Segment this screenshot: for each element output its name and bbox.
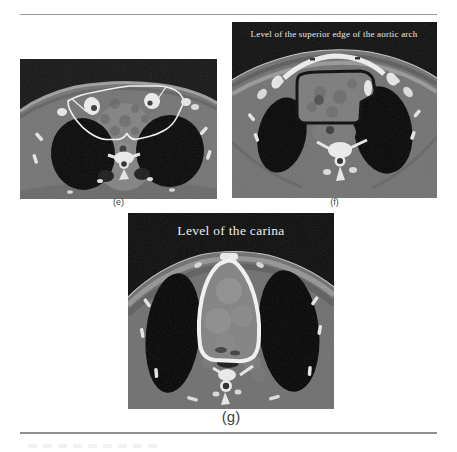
top-horizontal-rule [20,14,437,15]
panel-label-f: (f) [232,197,437,207]
faint-caption-remnant [28,444,160,448]
ct-panel-e [20,59,217,199]
panel-label-g: (g) [128,408,334,425]
ct-scan-e-image [20,59,217,199]
panel-label-e: (e) [20,197,217,207]
ct-scan-f-image: Level of the superior edge of the aortic… [232,22,437,198]
ct-scan-g-image: Level of the carina [128,213,334,409]
scanned-paper-page: Level of the superior edge of the aortic… [0,0,457,452]
scan-grain [128,213,334,409]
bottom-horizontal-rule [20,432,437,434]
ct-panel-g: Level of the carina [128,213,334,409]
scan-grain [20,59,217,199]
scan-grain [232,22,437,198]
ct-panel-f: Level of the superior edge of the aortic… [232,22,437,198]
